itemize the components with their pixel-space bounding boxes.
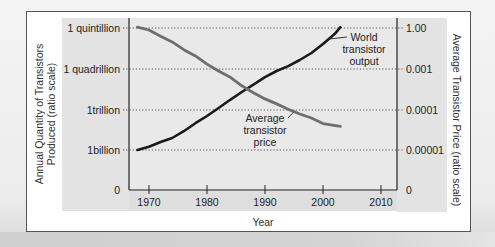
output-annotation-text: output <box>349 55 378 67</box>
right-tick-label: 0.001 <box>406 63 432 75</box>
right-tick-label: 0 <box>406 184 412 196</box>
output-annotation-text: World <box>350 31 377 43</box>
x-tick-label: 2000 <box>311 196 335 208</box>
right-tick-label: 0.0001 <box>406 104 438 116</box>
price-annotation-text: transistor <box>243 124 287 136</box>
right-axis-title: Average Transistor Price (ratio scale) <box>451 34 463 207</box>
left-axis-title-line2: Produced (ratio scale) <box>45 63 57 166</box>
chart: 01billion1trillion1 quadrillion1 quintil… <box>0 0 495 247</box>
left-tick-label: 1billion <box>87 144 120 156</box>
x-tick-label: 1990 <box>253 196 277 208</box>
price-annotation-text: Average <box>246 112 285 124</box>
output-annotation-text: transistor <box>342 43 386 55</box>
x-tick-label: 1970 <box>137 196 161 208</box>
left-tick-label: 1 quintillion <box>67 22 120 34</box>
right-tick-label: 0.00001 <box>406 144 444 156</box>
left-tick-label: 1trillion <box>87 104 120 116</box>
right-tick-label: 1.00 <box>406 22 427 34</box>
left-axis-title-line1: Annual Quantity of Transistors <box>33 44 45 185</box>
x-axis-title: Year <box>252 216 274 228</box>
price-annotation-text: price <box>254 136 277 148</box>
left-tick-label: 0 <box>114 184 120 196</box>
left-tick-label: 1 quadrillion <box>63 63 120 75</box>
x-tick-label: 2010 <box>369 196 393 208</box>
x-tick-label: 1980 <box>195 196 219 208</box>
